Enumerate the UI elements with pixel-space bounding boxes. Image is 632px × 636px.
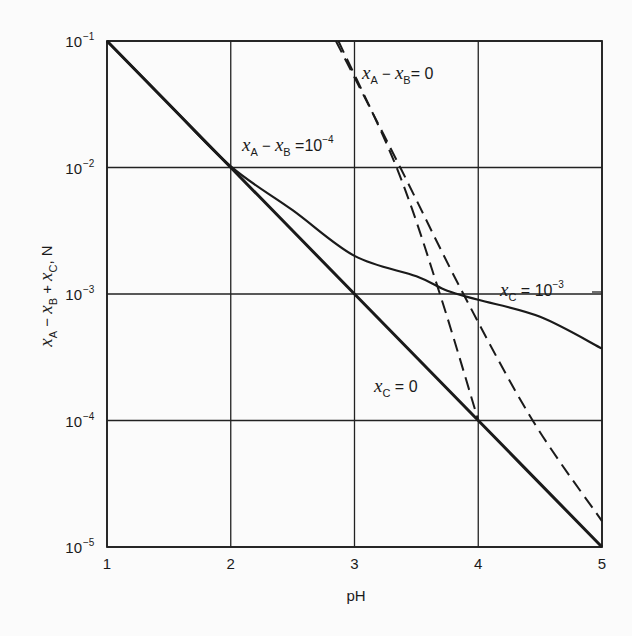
y-tick-exponent: −3 [83,284,95,295]
y-tick-exponent: −2 [83,158,95,169]
x-axis-label: pH [346,587,365,604]
y-tick-label: 10 [65,413,82,430]
y-tick-label: 10 [65,286,82,303]
y-tick-exponent: −1 [83,31,95,42]
x-tick-labels: 12345 [103,555,606,572]
svg-text:xA − xB + xC, N: xA − xB + xC, N [35,245,59,347]
x-tick-label: 1 [103,555,111,572]
x-tick-label: 3 [350,555,358,572]
y-tick-labels: 10−110−210−310−410−5 [65,31,95,556]
x-tick-label: 5 [598,555,606,572]
x-tick-label: 2 [227,555,235,572]
y-tick-label: 10 [65,33,82,50]
y-tick-exponent: −4 [83,411,95,422]
x-tick-label: 4 [474,555,482,572]
annotation-xc-1e-3: xC = 10−3 [499,279,564,303]
y-tick-label: 10 [65,160,82,177]
annotation-xa-minus-xb-1e-4: xA − xB =10−4 [241,134,334,158]
series-line-3 [338,41,478,421]
annotation-xc-zero: xC = 0 [373,375,418,399]
y-axis-label: xA − xB + xC, N [35,245,59,347]
y-tick-label: 10 [65,539,82,556]
chart: 12345 10−110−210−310−410−5 pH xA − xB + … [0,0,632,636]
annotation-xa-minus-xb-zero: xA − xB= 0 [361,62,433,86]
y-tick-exponent: −5 [83,537,95,548]
